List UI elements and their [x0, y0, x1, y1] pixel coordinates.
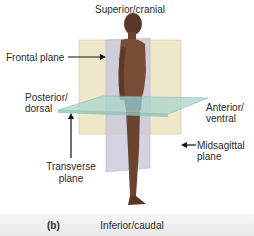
panel-label: (b) — [47, 220, 60, 231]
transverse-label-line1: Transverse — [44, 161, 98, 172]
posterior-label-line1: Posterior/ — [25, 92, 68, 103]
anterior-label-line2: ventral — [206, 113, 236, 124]
frontal-plane-label: Frontal plane — [6, 52, 64, 63]
midsagittal-label-line1: Midsagittal — [197, 140, 245, 151]
anatomical-planes-figure: Superior/cranial Frontal plane Posterior… — [0, 0, 254, 236]
inferior-caudal-label: Inferior/caudal — [96, 220, 168, 231]
transverse-label-line2: plane — [44, 173, 98, 184]
posterior-label-line2: dorsal — [25, 103, 52, 114]
anterior-label-line1: Anterior/ — [206, 102, 244, 113]
midsagittal-label-line2: plane — [197, 151, 221, 162]
superior-cranial-label: Superior/cranial — [90, 4, 170, 15]
